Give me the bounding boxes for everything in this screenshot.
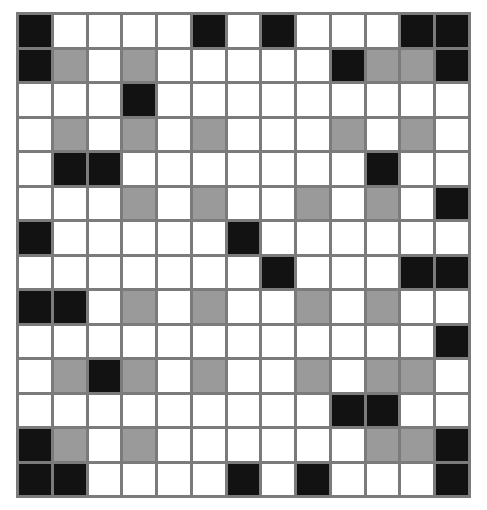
- grid-cell-r7-c10[interactable]: [332, 222, 364, 254]
- grid-cell-r7-c2[interactable]: [54, 222, 86, 254]
- grid-cell-r1-c5[interactable]: [158, 15, 190, 47]
- grid-cell-r1-c9[interactable]: [297, 15, 329, 47]
- grid-cell-r10-c9[interactable]: [297, 326, 329, 358]
- grid-cell-r8-c8[interactable]: [262, 257, 294, 289]
- grid-cell-r11-c5[interactable]: [158, 360, 190, 392]
- grid-cell-r9-c8[interactable]: [262, 291, 294, 323]
- grid-cell-r8-c13[interactable]: [436, 257, 468, 289]
- grid-cell-r14-c8[interactable]: [262, 464, 294, 496]
- grid-cell-r10-c5[interactable]: [158, 326, 190, 358]
- grid-cell-r14-c10[interactable]: [332, 464, 364, 496]
- grid-cell-r6-c11[interactable]: [367, 188, 399, 220]
- grid-cell-r11-c8[interactable]: [262, 360, 294, 392]
- grid-cell-r4-c8[interactable]: [262, 119, 294, 151]
- grid-cell-r9-c7[interactable]: [228, 291, 260, 323]
- grid-cell-r1-c12[interactable]: [401, 15, 433, 47]
- grid-cell-r10-c12[interactable]: [401, 326, 433, 358]
- grid-cell-r14-c1[interactable]: [19, 464, 51, 496]
- grid-cell-r11-c2[interactable]: [54, 360, 86, 392]
- grid-cell-r8-c3[interactable]: [89, 257, 121, 289]
- grid-cell-r1-c1[interactable]: [19, 15, 51, 47]
- grid-cell-r8-c6[interactable]: [193, 257, 225, 289]
- grid-cell-r8-c4[interactable]: [123, 257, 155, 289]
- grid-cell-r9-c6[interactable]: [193, 291, 225, 323]
- grid-cell-r6-c3[interactable]: [89, 188, 121, 220]
- grid-cell-r14-c7[interactable]: [228, 464, 260, 496]
- grid-cell-r3-c8[interactable]: [262, 84, 294, 116]
- grid-cell-r14-c4[interactable]: [123, 464, 155, 496]
- grid-cell-r13-c6[interactable]: [193, 429, 225, 461]
- grid-cell-r7-c6[interactable]: [193, 222, 225, 254]
- grid-cell-r6-c8[interactable]: [262, 188, 294, 220]
- grid-cell-r9-c1[interactable]: [19, 291, 51, 323]
- grid-cell-r7-c13[interactable]: [436, 222, 468, 254]
- grid-cell-r4-c11[interactable]: [367, 119, 399, 151]
- grid-cell-r12-c7[interactable]: [228, 395, 260, 427]
- grid-cell-r1-c8[interactable]: [262, 15, 294, 47]
- grid-cell-r5-c12[interactable]: [401, 153, 433, 185]
- grid-cell-r3-c10[interactable]: [332, 84, 364, 116]
- grid-cell-r7-c4[interactable]: [123, 222, 155, 254]
- grid-cell-r8-c1[interactable]: [19, 257, 51, 289]
- grid-cell-r12-c3[interactable]: [89, 395, 121, 427]
- grid-cell-r10-c4[interactable]: [123, 326, 155, 358]
- grid-cell-r1-c4[interactable]: [123, 15, 155, 47]
- grid-cell-r4-c1[interactable]: [19, 119, 51, 151]
- grid-cell-r11-c7[interactable]: [228, 360, 260, 392]
- grid-cell-r8-c7[interactable]: [228, 257, 260, 289]
- grid-cell-r2-c10[interactable]: [332, 50, 364, 82]
- grid-cell-r7-c7[interactable]: [228, 222, 260, 254]
- grid-cell-r3-c9[interactable]: [297, 84, 329, 116]
- grid-cell-r4-c3[interactable]: [89, 119, 121, 151]
- grid-cell-r11-c3[interactable]: [89, 360, 121, 392]
- grid-cell-r5-c13[interactable]: [436, 153, 468, 185]
- grid-cell-r13-c7[interactable]: [228, 429, 260, 461]
- grid-cell-r6-c6[interactable]: [193, 188, 225, 220]
- grid-cell-r10-c13[interactable]: [436, 326, 468, 358]
- grid-cell-r6-c1[interactable]: [19, 188, 51, 220]
- grid-cell-r7-c1[interactable]: [19, 222, 51, 254]
- grid-cell-r13-c2[interactable]: [54, 429, 86, 461]
- grid-cell-r13-c13[interactable]: [436, 429, 468, 461]
- grid-cell-r14-c5[interactable]: [158, 464, 190, 496]
- grid-cell-r9-c2[interactable]: [54, 291, 86, 323]
- grid-cell-r13-c11[interactable]: [367, 429, 399, 461]
- grid-cell-r14-c13[interactable]: [436, 464, 468, 496]
- grid-cell-r12-c2[interactable]: [54, 395, 86, 427]
- grid-cell-r12-c9[interactable]: [297, 395, 329, 427]
- grid-cell-r2-c6[interactable]: [193, 50, 225, 82]
- grid-cell-r1-c13[interactable]: [436, 15, 468, 47]
- grid-cell-r4-c2[interactable]: [54, 119, 86, 151]
- grid-cell-r13-c9[interactable]: [297, 429, 329, 461]
- grid-cell-r2-c8[interactable]: [262, 50, 294, 82]
- grid-cell-r14-c3[interactable]: [89, 464, 121, 496]
- grid-cell-r5-c1[interactable]: [19, 153, 51, 185]
- grid-cell-r6-c5[interactable]: [158, 188, 190, 220]
- grid-cell-r12-c13[interactable]: [436, 395, 468, 427]
- grid-cell-r13-c8[interactable]: [262, 429, 294, 461]
- grid-cell-r9-c5[interactable]: [158, 291, 190, 323]
- grid-cell-r12-c1[interactable]: [19, 395, 51, 427]
- grid-cell-r6-c10[interactable]: [332, 188, 364, 220]
- grid-cell-r4-c4[interactable]: [123, 119, 155, 151]
- grid-cell-r13-c5[interactable]: [158, 429, 190, 461]
- grid-cell-r10-c3[interactable]: [89, 326, 121, 358]
- grid-cell-r4-c6[interactable]: [193, 119, 225, 151]
- grid-cell-r13-c3[interactable]: [89, 429, 121, 461]
- grid-cell-r3-c2[interactable]: [54, 84, 86, 116]
- grid-cell-r3-c1[interactable]: [19, 84, 51, 116]
- grid-cell-r5-c6[interactable]: [193, 153, 225, 185]
- grid-cell-r9-c9[interactable]: [297, 291, 329, 323]
- grid-cell-r1-c6[interactable]: [193, 15, 225, 47]
- grid-cell-r10-c2[interactable]: [54, 326, 86, 358]
- grid-cell-r11-c4[interactable]: [123, 360, 155, 392]
- grid-cell-r6-c7[interactable]: [228, 188, 260, 220]
- grid-cell-r11-c10[interactable]: [332, 360, 364, 392]
- grid-cell-r3-c3[interactable]: [89, 84, 121, 116]
- grid-cell-r11-c1[interactable]: [19, 360, 51, 392]
- grid-cell-r5-c7[interactable]: [228, 153, 260, 185]
- grid-cell-r6-c4[interactable]: [123, 188, 155, 220]
- grid-cell-r10-c11[interactable]: [367, 326, 399, 358]
- grid-cell-r7-c5[interactable]: [158, 222, 190, 254]
- grid-cell-r8-c2[interactable]: [54, 257, 86, 289]
